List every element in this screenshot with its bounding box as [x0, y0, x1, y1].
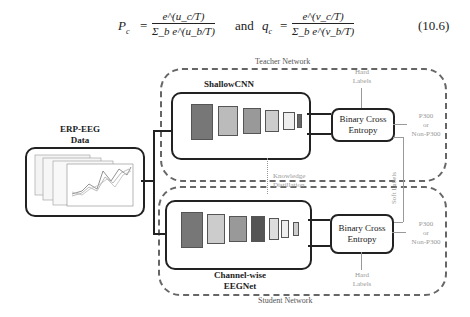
layer-input	[191, 104, 213, 140]
eeg-plots-thumbnail	[27, 149, 139, 211]
q-numerator: e^(v_c/T)	[302, 10, 343, 22]
split-vertical-line	[153, 130, 155, 233]
eegnet-label: Channel-wiseEEGNet	[200, 270, 280, 292]
teacher-output: P300orNon-P300	[404, 112, 448, 139]
q-denominator: Σ_b e^(v_b/T)	[292, 25, 354, 37]
equals-sign: =	[140, 18, 147, 34]
q-lhs: qc	[262, 18, 272, 36]
layer-bn	[229, 216, 247, 242]
eegnet-box	[165, 200, 312, 270]
p-denominator: Σ_b e^(u_b/T)	[152, 25, 215, 37]
teacher-to-bce-line	[307, 113, 331, 115]
teacher-network-label: Teacher Network	[255, 57, 310, 66]
soft-labels-connector-bottom	[393, 222, 403, 223]
layer-dense	[297, 114, 302, 128]
layer-depthwise	[251, 216, 265, 242]
soft-labels-label: Soft Labels	[390, 172, 398, 204]
layer-input	[181, 212, 203, 248]
layer-pool	[265, 110, 279, 132]
p-lhs: Pc	[118, 18, 130, 36]
distillation-line	[267, 158, 268, 194]
p-fraction: e^(u_c/T) Σ_b e^(u_b/T)	[152, 10, 215, 37]
layer-conv	[207, 214, 225, 244]
soft-labels-line	[403, 137, 404, 222]
layer-conv	[218, 106, 238, 136]
layer-dropout	[283, 112, 295, 130]
to-teacher-line	[153, 130, 171, 132]
student-output: P300orNon-P300	[404, 220, 448, 247]
student-hard-labels: HardLabels	[347, 271, 377, 289]
soft-labels-connector-top	[393, 137, 403, 138]
data-to-split-line	[141, 180, 153, 182]
teacher-hard-labels: HardLabels	[347, 68, 377, 86]
student-network-label: Student Network	[258, 296, 312, 305]
student-bce-box: Binary CrossEntropy	[330, 214, 394, 254]
equation-number: (10.6)	[418, 18, 449, 34]
layer-separable	[281, 220, 289, 238]
equals-sign-2: =	[280, 18, 287, 34]
shallowcnn-label: ShallowCNN	[204, 79, 254, 89]
student-hard-labels-arrow	[361, 252, 362, 270]
erp-eeg-data-box	[25, 147, 145, 217]
knowledge-distillation-label: KnowledgeDistillation	[273, 172, 305, 190]
shallowcnn-box	[171, 92, 311, 160]
layer-dense	[293, 222, 299, 236]
bce-to-student-line	[308, 245, 330, 247]
to-student-line	[153, 233, 165, 235]
input-title: ERP-EEG Data	[35, 124, 125, 146]
teacher-hard-labels-arrow	[361, 88, 362, 108]
student-to-bce-line	[308, 219, 330, 221]
layer-pool	[269, 218, 279, 240]
layer-bn	[243, 108, 261, 134]
and-text: and	[235, 18, 254, 34]
teacher-bce-box: Binary CrossEntropy	[331, 108, 395, 142]
bce-to-teacher-line	[307, 133, 331, 135]
q-fraction: e^(v_c/T) Σ_b e^(v_b/T)	[292, 10, 354, 37]
equation-10-6: Pc = e^(u_c/T) Σ_b e^(u_b/T) and qc = e^…	[0, 8, 470, 52]
p-numerator: e^(u_c/T)	[162, 10, 204, 22]
